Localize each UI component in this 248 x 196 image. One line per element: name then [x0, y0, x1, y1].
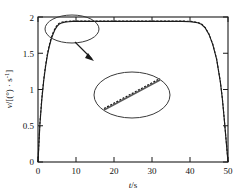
x-tick-label-2: 20: [110, 166, 120, 176]
inset-dashed-line: [104, 79, 160, 109]
figure-caption: [0, 183, 248, 195]
y-axis-ticks: [38, 17, 228, 162]
highlight-ellipse: [45, 15, 99, 43]
y-tick-label-3: 1.5: [23, 49, 35, 59]
y-axis-title: v/[(°) · s-1]: [3, 70, 14, 109]
magnified-inset: [94, 72, 170, 118]
x-tick-label-5: 50: [224, 166, 234, 176]
x-tick-label-4: 40: [186, 166, 196, 176]
callout-arrow: [75, 42, 94, 61]
y-tick-label-0: 0: [30, 157, 35, 167]
chart-canvas: 0 10 20 30 40 50 0 0.5 1 1.5 2 t/s v/[(°…: [0, 0, 248, 196]
y-tick-label-2: 1: [30, 85, 35, 95]
x-tick-label-1: 10: [72, 166, 82, 176]
x-tick-label-0: 0: [36, 166, 41, 176]
series-reference-line: [38, 21, 228, 162]
inset-solid-line: [104, 80, 160, 110]
x-tick-label-3: 30: [148, 166, 158, 176]
figure-panel: 0 10 20 30 40 50 0 0.5 1 1.5 2 t/s v/[(°…: [0, 0, 248, 196]
plot-frame: [38, 17, 228, 162]
y-tick-label-1: 0.5: [23, 121, 35, 131]
series-group: [38, 21, 228, 162]
x-axis-ticks: [38, 17, 228, 162]
y-tick-label-4: 2: [30, 13, 35, 23]
